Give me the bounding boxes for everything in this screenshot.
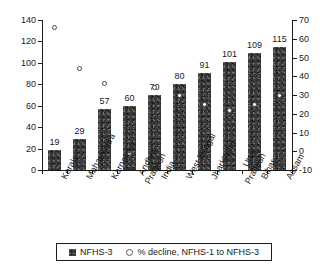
left-tick-label: 80 xyxy=(2,80,36,89)
bar-value-label: 29 xyxy=(66,127,94,136)
left-tick-mark xyxy=(38,20,42,21)
right-tick-mark xyxy=(293,76,297,77)
left-tick-label: 120 xyxy=(2,37,36,46)
legend-item-nfhs3: NFHS-3 xyxy=(69,248,113,257)
x-tick-mark xyxy=(42,170,43,174)
right-tick-label: 70 xyxy=(299,16,309,25)
bar-value-label: 109 xyxy=(241,41,269,50)
bar-value-label: 19 xyxy=(41,138,69,147)
legend-label-nfhs3: NFHS-3 xyxy=(80,248,113,257)
left-tick-mark xyxy=(38,127,42,128)
bar xyxy=(48,150,61,170)
right-tick-label: -10 xyxy=(299,166,312,175)
bar-value-label: 101 xyxy=(216,50,244,59)
left-tick-label: 40 xyxy=(2,123,36,132)
bar xyxy=(273,47,286,170)
legend-item-percent-decline: % decline, NFHS-1 to NFHS-3 xyxy=(126,248,259,257)
bar-value-label: 57 xyxy=(91,97,119,106)
right-tick-label: 50 xyxy=(299,54,309,63)
scatter-marker xyxy=(52,25,57,30)
chart-container: 020406080100120140 -10010203040506070 19… xyxy=(0,0,334,271)
right-tick-label: 20 xyxy=(299,110,309,119)
scatter-marker xyxy=(77,66,82,71)
plot-area: 020406080100120140 -10010203040506070 19… xyxy=(42,20,292,170)
right-tick-label: 30 xyxy=(299,91,309,100)
left-tick-mark xyxy=(38,106,42,107)
bar-value-label: 91 xyxy=(191,61,219,70)
left-tick-mark xyxy=(38,41,42,42)
left-tick-label: 20 xyxy=(2,145,36,154)
right-tick-label: 40 xyxy=(299,72,309,81)
right-tick-mark xyxy=(293,95,297,96)
bar-value-label: 60 xyxy=(116,94,144,103)
bar-value-label: 115 xyxy=(266,35,294,44)
scatter-marker xyxy=(252,102,257,107)
scatter-marker xyxy=(202,102,207,107)
open-circle-icon xyxy=(126,249,133,256)
scatter-marker xyxy=(277,93,282,98)
right-tick-label: 60 xyxy=(299,35,309,44)
left-tick-mark xyxy=(38,149,42,150)
left-tick-label: 60 xyxy=(2,102,36,111)
legend-label-percent-decline: % decline, NFHS-1 to NFHS-3 xyxy=(137,248,259,257)
right-tick-mark xyxy=(293,114,297,115)
scatter-marker xyxy=(152,85,157,90)
scatter-marker xyxy=(177,93,182,98)
left-tick-mark xyxy=(38,84,42,85)
filled-square-icon xyxy=(69,249,76,256)
bar-value-label: 80 xyxy=(166,72,194,81)
right-tick-label: 10 xyxy=(299,129,309,138)
scatter-marker xyxy=(227,108,232,113)
right-tick-mark xyxy=(293,20,297,21)
left-tick-label: 100 xyxy=(2,59,36,68)
right-tick-mark xyxy=(293,133,297,134)
left-tick-mark xyxy=(38,63,42,64)
right-tick-mark xyxy=(293,58,297,59)
right-tick-mark xyxy=(293,39,297,40)
left-axis-line xyxy=(42,20,43,170)
left-tick-label: 140 xyxy=(2,16,36,25)
scatter-marker xyxy=(102,81,107,86)
chart-legend: NFHS-3 % decline, NFHS-1 to NFHS-3 xyxy=(56,243,272,261)
left-tick-label: 0 xyxy=(2,166,36,175)
